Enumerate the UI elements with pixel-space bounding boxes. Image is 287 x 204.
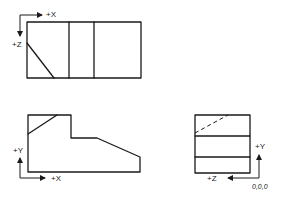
top-x-label: +X xyxy=(46,10,57,19)
top-view-slant-edge xyxy=(27,43,54,78)
side-view-hidden-edge xyxy=(195,115,228,133)
top-z-label: +Z xyxy=(12,40,22,49)
top-view-axes: +X +Z xyxy=(12,10,57,49)
front-y-label: +Y xyxy=(13,146,24,155)
top-view-outline xyxy=(27,22,141,78)
side-z-label: +Z xyxy=(207,174,217,183)
front-view: +Y +X xyxy=(13,115,140,183)
top-view: +X +Z xyxy=(12,10,141,78)
front-view-axes: +Y +X xyxy=(13,146,62,183)
front-x-label: +X xyxy=(51,174,62,183)
origin-label: 0,0,0 xyxy=(252,183,268,190)
side-view-axes: +Y +Z 0,0,0 xyxy=(207,142,268,190)
orthographic-drawing: +X +Z +Y +X +Y +Z 0,0,0 xyxy=(0,0,287,204)
side-view: +Y +Z 0,0,0 xyxy=(195,115,268,190)
front-view-slant-edge xyxy=(28,115,57,134)
side-view-outline xyxy=(195,115,250,173)
side-y-label: +Y xyxy=(255,142,266,151)
